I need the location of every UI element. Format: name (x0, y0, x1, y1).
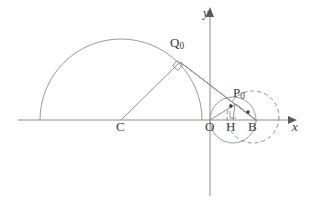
dot-P0-foot (229, 104, 232, 107)
point-label-C: C (116, 120, 125, 133)
subscript-P0: 0 (240, 91, 245, 101)
subscript-Q0: 0 (179, 41, 184, 51)
point-label-H: H (226, 120, 235, 133)
y-axis-label: y (203, 6, 209, 19)
segment-P0-B (236, 104, 256, 120)
point-label-O: O (205, 120, 214, 133)
marker-dots-group (229, 104, 249, 113)
x-axis-label: x (292, 120, 298, 133)
radius-C-Q0 (121, 62, 180, 120)
point-label-P0: P0 (233, 86, 245, 102)
point-label-Q0: Q0 (170, 36, 184, 52)
dot-near-B (246, 110, 249, 113)
point-label-B: B (248, 120, 257, 133)
chord-Q0-P0 (180, 62, 236, 105)
geometry-canvas (0, 0, 309, 207)
axes-group (18, 7, 297, 196)
geometry-figure: Q0 P0 C O H B x y (0, 0, 309, 207)
